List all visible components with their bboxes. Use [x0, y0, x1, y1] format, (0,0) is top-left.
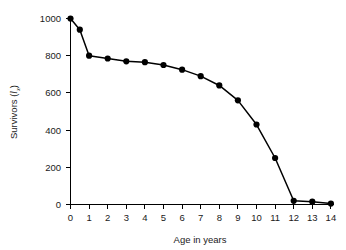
data-point — [235, 97, 241, 103]
data-point — [309, 199, 315, 205]
data-point — [291, 198, 297, 204]
x-tick-label: 0 — [68, 212, 73, 223]
x-tick-label: 4 — [142, 212, 147, 223]
data-point — [328, 200, 334, 206]
data-point — [67, 15, 73, 21]
x-axis-tick-labels: 0 1 2 3 4 5 6 7 8 9 10 11 12 13 14 — [68, 212, 336, 223]
data-point — [160, 62, 166, 68]
series-group — [67, 15, 334, 206]
x-tick-label: 3 — [124, 212, 129, 223]
data-point — [142, 59, 148, 65]
data-point — [86, 53, 92, 59]
y-tick-label: 1000 — [40, 13, 61, 24]
data-point — [123, 58, 129, 64]
data-point — [77, 27, 83, 33]
y-axis-title-group: Survivors (lx) — [8, 85, 21, 139]
survivorship-chart-figure: 0 200 400 600 800 1000 0 1 — [0, 0, 346, 250]
data-point — [253, 121, 259, 127]
x-axis-title-group: Age in years — [174, 234, 227, 245]
data-point — [198, 73, 204, 79]
x-tick-label: 1 — [86, 212, 91, 223]
survivorship-markers — [67, 15, 334, 206]
data-point — [216, 82, 222, 88]
y-tick-label: 0 — [56, 199, 61, 210]
x-tick-label: 12 — [288, 212, 299, 223]
x-tick-label: 13 — [307, 212, 318, 223]
y-axis-title-close: ) — [8, 85, 19, 88]
x-tick-label: 2 — [105, 212, 110, 223]
x-axis-title: Age in years — [174, 234, 227, 245]
y-axis-title-main: Survivors ( — [8, 93, 19, 139]
x-tick-label: 5 — [161, 212, 166, 223]
axes-group — [71, 16, 335, 205]
y-axis-ticks — [66, 19, 71, 205]
y-axis-tick-labels: 0 200 400 600 800 1000 — [40, 13, 61, 210]
data-point — [105, 55, 111, 61]
chart-canvas: 0 200 400 600 800 1000 0 1 — [0, 0, 346, 250]
y-tick-label: 200 — [45, 162, 61, 173]
svg-text:Survivors (lx): Survivors (lx) — [8, 85, 21, 139]
x-tick-label: 11 — [270, 212, 280, 223]
data-point — [179, 67, 185, 73]
y-tick-label: 600 — [45, 87, 61, 98]
y-tick-label: 400 — [45, 125, 61, 136]
survivorship-line — [71, 19, 331, 204]
data-point — [272, 155, 278, 161]
x-tick-label: 9 — [235, 212, 240, 223]
x-tick-label: 6 — [179, 212, 184, 223]
x-tick-label: 8 — [217, 212, 222, 223]
y-tick-label: 800 — [45, 50, 61, 61]
x-axis-ticks — [71, 205, 331, 210]
x-tick-label: 10 — [251, 212, 262, 223]
x-tick-label: 14 — [326, 212, 337, 223]
x-tick-label: 7 — [198, 212, 203, 223]
